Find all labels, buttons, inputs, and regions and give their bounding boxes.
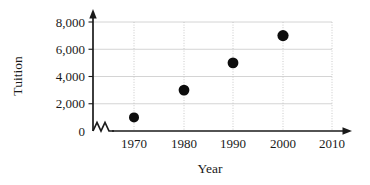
data-point-1980 [179,85,190,96]
x-axis [93,123,352,135]
x-axis-title: Year [198,161,223,176]
y-tick-label-4000: 4,000 [56,69,85,84]
axis-break-zigzag-icon [93,123,114,132]
x-tick-label-1990: 1990 [220,136,246,151]
data-point-1970 [129,112,139,122]
y-axis [89,9,97,131]
x-tick-labels: 1970 1980 1990 2000 2010 [121,136,345,151]
data-point-2000 [277,30,288,41]
horizontal-gridlines [93,22,332,104]
y-axis-title: Tuition [10,56,25,96]
x-tick-label-1970: 1970 [121,136,147,151]
scatter-chart: 0 2,000 4,000 6,000 8,000 1970 1980 1990… [0,0,370,185]
y-tick-label-8000: 8,000 [56,15,85,30]
data-point-1990 [228,58,239,69]
x-tick-label-2000: 2000 [270,136,296,151]
x-tick-label-1980: 1980 [171,136,197,151]
x-axis-arrowhead [343,127,353,134]
y-axis-arrowhead [89,9,96,19]
y-tick-labels: 0 2,000 4,000 6,000 8,000 [56,15,85,139]
x-tick-label-2010: 2010 [319,136,345,151]
chart-canvas: 0 2,000 4,000 6,000 8,000 1970 1980 1990… [0,0,370,185]
y-tick-label-0: 0 [79,124,86,139]
y-tick-label-6000: 6,000 [56,42,85,57]
y-tick-label-2000: 2,000 [56,96,85,111]
